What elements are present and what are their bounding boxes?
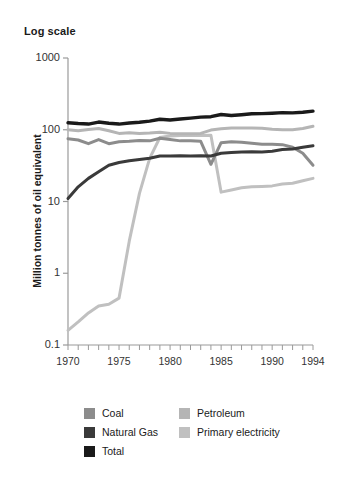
- legend-swatch-icon: [84, 427, 95, 438]
- legend-item: Coal: [84, 404, 158, 423]
- legend-swatch-icon: [179, 427, 190, 438]
- x-tick-label: 1994: [291, 355, 335, 367]
- legend-label: Total: [102, 446, 124, 457]
- y-tick-label: 0.1: [14, 338, 60, 350]
- x-tick-label: 1980: [148, 355, 192, 367]
- legend-label: Natural Gas: [102, 427, 158, 438]
- legend-column-left: CoalNatural GasTotal: [84, 404, 158, 461]
- y-tick-label: 10: [14, 195, 60, 207]
- legend-swatch-icon: [179, 408, 190, 419]
- y-tick-label: 1000: [14, 51, 60, 63]
- y-tick-label: 1: [14, 266, 60, 278]
- legend-item: Primary electricity: [179, 423, 280, 442]
- legend-label: Petroleum: [197, 408, 245, 419]
- y-tick-label: 100: [14, 123, 60, 135]
- chart-figure: Log scale Million tonnes of oil equivale…: [0, 0, 342, 482]
- x-tick-label: 1975: [97, 355, 141, 367]
- series-line-natural-gas: [68, 146, 313, 199]
- series-line-primary-electricity: [68, 135, 313, 330]
- legend-swatch-icon: [84, 408, 95, 419]
- x-tick-label: 1990: [250, 355, 294, 367]
- series-line-total: [68, 111, 313, 124]
- legend-column-right: PetroleumPrimary electricity: [179, 404, 280, 442]
- series-line-petroleum: [68, 126, 313, 134]
- x-tick-label: 1970: [46, 355, 90, 367]
- legend-item: Total: [84, 442, 158, 461]
- legend-label: Primary electricity: [197, 427, 280, 438]
- x-tick-label: 1985: [199, 355, 243, 367]
- legend-item: Petroleum: [179, 404, 280, 423]
- legend-label: Coal: [102, 408, 124, 419]
- legend-swatch-icon: [84, 446, 95, 457]
- legend-item: Natural Gas: [84, 423, 158, 442]
